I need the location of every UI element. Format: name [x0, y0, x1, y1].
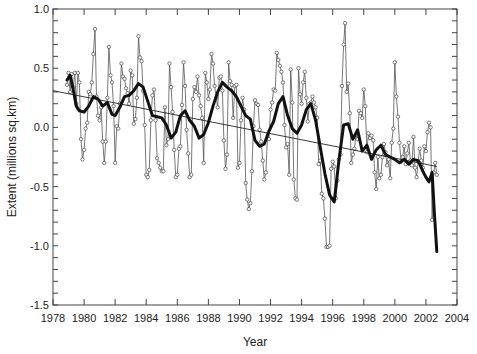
data-point-marker — [423, 145, 426, 148]
data-point-marker — [331, 160, 334, 163]
data-point-marker — [281, 81, 284, 84]
data-point-marker — [351, 153, 354, 156]
data-point-marker — [96, 114, 99, 117]
data-point-marker — [328, 244, 331, 247]
y-tick-label: -1.0 — [30, 240, 49, 252]
data-point-marker — [364, 104, 367, 107]
data-point-marker — [182, 61, 185, 64]
data-point-marker — [320, 192, 323, 195]
data-point-marker — [434, 161, 437, 164]
data-point-marker — [221, 89, 224, 92]
data-point-marker — [163, 106, 166, 109]
data-point-marker — [277, 58, 280, 61]
y-tick-label: -1.5 — [30, 299, 49, 311]
data-point-marker — [131, 74, 134, 77]
data-point-marker — [239, 119, 242, 122]
data-point-marker — [385, 164, 388, 167]
data-point-marker — [169, 85, 172, 88]
x-tick-label: 1986 — [165, 312, 189, 324]
data-point-marker — [202, 161, 205, 164]
data-point-marker — [261, 159, 264, 162]
data-point-marker — [123, 77, 126, 80]
x-axis-tick-labels: 1978198019821984198619881990199219941996… — [41, 312, 469, 324]
data-point-marker — [371, 139, 374, 142]
data-point-marker — [378, 177, 381, 180]
data-point-marker — [84, 127, 87, 130]
data-point-marker — [210, 52, 213, 55]
data-point-marker — [224, 167, 227, 170]
data-point-marker — [134, 117, 137, 120]
data-point-marker — [107, 45, 110, 48]
data-point-marker — [424, 149, 427, 152]
data-point-marker — [241, 96, 244, 99]
data-point-marker — [199, 104, 202, 107]
data-point-marker — [89, 93, 92, 96]
data-point-marker — [112, 104, 115, 107]
data-point-marker — [183, 84, 186, 87]
y-tick-label: 0.0 — [34, 121, 49, 133]
x-tick-label: 1978 — [41, 312, 65, 324]
data-point-marker — [216, 106, 219, 109]
data-point-marker — [298, 93, 301, 96]
data-point-marker — [205, 81, 208, 84]
data-point-marker — [359, 112, 362, 115]
data-point-marker — [65, 83, 68, 86]
data-point-marker — [280, 70, 283, 73]
data-point-marker — [159, 166, 162, 169]
data-point-marker — [253, 99, 256, 102]
data-point-marker — [168, 62, 171, 65]
x-tick-label: 1992 — [258, 312, 282, 324]
data-point-marker — [86, 121, 89, 124]
data-point-marker — [68, 90, 71, 93]
data-point-marker — [129, 69, 132, 72]
data-point-marker — [367, 132, 370, 135]
data-point-marker — [284, 146, 287, 149]
data-point-marker — [288, 173, 291, 176]
data-point-marker — [193, 85, 196, 88]
data-point-marker — [317, 162, 320, 165]
x-tick-label: 1990 — [227, 312, 251, 324]
data-point-marker — [249, 202, 252, 205]
data-point-marker — [322, 197, 325, 200]
data-point-marker — [117, 127, 120, 130]
data-point-marker — [204, 71, 207, 74]
data-point-marker — [270, 101, 273, 104]
data-point-marker — [350, 161, 353, 164]
data-point-marker — [165, 144, 168, 147]
data-point-marker — [132, 122, 135, 125]
data-point-marker — [194, 90, 197, 93]
data-point-marker — [124, 87, 127, 90]
data-point-marker — [211, 62, 214, 65]
data-point-marker — [151, 94, 154, 97]
data-point-marker — [81, 158, 84, 161]
data-point-marker — [120, 62, 123, 65]
data-point-marker — [412, 135, 415, 138]
x-tick-label: 1980 — [72, 312, 96, 324]
data-point-marker — [345, 90, 348, 93]
data-point-marker — [155, 157, 158, 160]
data-point-marker — [191, 97, 194, 100]
data-point-marker — [295, 198, 298, 201]
data-point-marker — [283, 123, 286, 126]
data-point-marker — [137, 35, 140, 38]
data-point-marker — [162, 170, 165, 173]
data-point-marker — [333, 165, 336, 168]
data-point-marker — [393, 61, 396, 64]
data-point-marker — [227, 61, 230, 64]
data-point-marker — [235, 83, 238, 86]
data-point-marker — [297, 67, 300, 70]
data-point-marker — [302, 81, 305, 84]
x-axis-ticks — [53, 9, 457, 305]
data-point-marker — [305, 96, 308, 99]
data-point-marker — [180, 103, 183, 106]
data-point-marker — [379, 173, 382, 176]
data-point-marker — [311, 95, 314, 98]
x-tick-label: 1994 — [289, 312, 313, 324]
data-point-marker — [90, 81, 93, 84]
data-point-marker — [79, 138, 82, 141]
data-point-marker — [375, 187, 378, 190]
data-point-marker — [407, 141, 410, 144]
data-point-marker — [256, 103, 259, 106]
data-point-marker — [236, 166, 239, 169]
x-tick-label: 1996 — [320, 312, 344, 324]
